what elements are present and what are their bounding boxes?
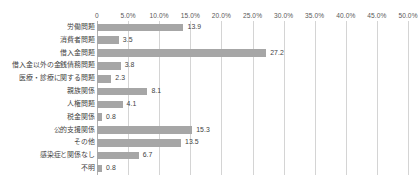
bar: [97, 62, 121, 70]
category-label: 税金関係: [67, 111, 95, 124]
bar-row: 借入金以外の金銭債務問題3.8: [0, 59, 418, 72]
bar: [97, 88, 147, 96]
x-tick-label: 20.0%: [212, 10, 231, 21]
bar: [97, 139, 181, 147]
x-tick-label: 5.0%: [120, 10, 135, 21]
bar-row: 医療・診療に関する問題2.3: [0, 72, 418, 85]
bar-value-label: 3.8: [125, 59, 135, 72]
bar-value-label: 13.5: [185, 136, 199, 149]
category-label: 消費者問題: [60, 34, 95, 47]
category-label: 人権問題: [67, 98, 95, 111]
bar: [97, 101, 123, 109]
category-label: その他: [74, 136, 95, 149]
bar: [97, 165, 102, 173]
bar-row: 親族関係8.1: [0, 85, 418, 98]
x-tick-label: 15.0%: [181, 10, 200, 21]
x-tick-label: 50.0%: [398, 10, 417, 21]
category-label: 借入金以外の金銭債務問題: [12, 59, 95, 72]
bar-value-label: 3.5: [123, 34, 133, 47]
bar: [97, 75, 111, 83]
bar-value-label: 4.1: [127, 98, 137, 111]
category-label: 労働問題: [67, 21, 95, 34]
category-label: 医療・診療に関する問題: [19, 72, 95, 85]
category-label: 不明: [81, 162, 95, 175]
x-tick-label: 0: [95, 10, 99, 21]
bar-row: その他13.5: [0, 136, 418, 149]
chart-title: [48, 0, 348, 5]
x-tick-label: 30.0%: [274, 10, 293, 21]
bar-row: 消費者問題3.5: [0, 34, 418, 47]
horizontal-bar-chart: 05.0%10.0%15.0%20.0%25.0%30.0%35.0%40.0%…: [0, 0, 418, 177]
category-label: 借入金問題: [60, 47, 95, 60]
category-label: 公的支援関係: [54, 124, 95, 137]
bar-row: 人権問題4.1: [0, 98, 418, 111]
bar: [97, 113, 102, 121]
x-tick-label: 40.0%: [336, 10, 355, 21]
category-label: 親族関係: [67, 85, 95, 98]
bar-row: 公的支援関係15.3: [0, 124, 418, 137]
bar: [97, 126, 192, 134]
bar-row: 不明0.8: [0, 162, 418, 175]
bar-row: 感染症と関係なし6.7: [0, 149, 418, 162]
bar: [97, 152, 139, 160]
category-label: 感染症と関係なし: [40, 149, 95, 162]
bar: [97, 36, 119, 44]
bar: [97, 49, 266, 57]
bar-value-label: 15.3: [196, 124, 210, 137]
x-tick-label: 35.0%: [305, 10, 324, 21]
x-tick-label: 45.0%: [367, 10, 386, 21]
bar-value-label: 27.2: [270, 47, 284, 60]
bar-row: 借入金問題27.2: [0, 47, 418, 60]
x-tick-label: 10.0%: [150, 10, 169, 21]
bar-value-label: 2.3: [115, 72, 125, 85]
bar-rows: 労働問題13.9消費者問題3.5借入金問題27.2借入金以外の金銭債務問題3.8…: [0, 21, 418, 175]
bar-value-label: 0.8: [106, 162, 116, 175]
bar-row: 労働問題13.9: [0, 21, 418, 34]
bar-value-label: 13.9: [187, 21, 201, 34]
bar: [97, 24, 183, 32]
x-tick-label: 25.0%: [243, 10, 262, 21]
bar-value-label: 0.8: [106, 111, 116, 124]
bar-row: 税金関係0.8: [0, 111, 418, 124]
bar-value-label: 8.1: [151, 85, 161, 98]
bar-value-label: 6.7: [143, 149, 153, 162]
x-axis-tick-labels: 05.0%10.0%15.0%20.0%25.0%30.0%35.0%40.0%…: [0, 10, 418, 21]
